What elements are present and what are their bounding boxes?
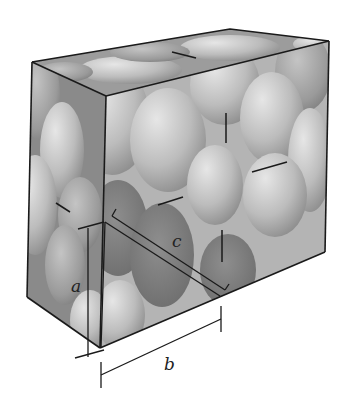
unit-cell-figure: a c b	[0, 0, 352, 411]
label-b: b	[164, 354, 175, 374]
left-face	[13, 50, 110, 350]
unit-cell-diagram: a c b	[0, 0, 352, 411]
label-c: c	[172, 231, 182, 251]
label-a: a	[71, 276, 81, 296]
